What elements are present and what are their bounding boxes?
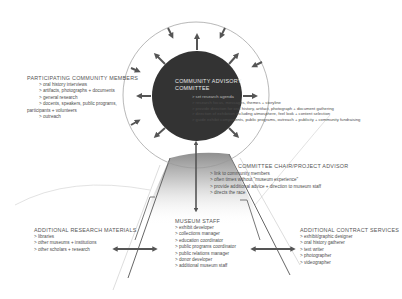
outer-arc-left: [15, 185, 150, 205]
contract-title: ADDITIONAL CONTRACT SERVICES: [300, 227, 399, 234]
list-item: public programs coordinator: [175, 244, 236, 250]
additional-contract-services: ADDITIONAL CONTRACT SERVICES exhibit/gra…: [300, 227, 399, 266]
research-title: ADDITIONAL RESEARCH MATERIALS: [34, 227, 137, 234]
museum-staff: MUSEUM STAFF exhibit developer collectio…: [175, 218, 236, 270]
cac-title-2: COMMITTEE: [175, 85, 242, 92]
list-item: additional museum staff: [175, 263, 236, 269]
community-advisory-committee: COMMUNITY ADVISORY COMMITTEE: [175, 78, 242, 92]
list-item: videographer: [300, 260, 399, 266]
additional-research: ADDITIONAL RESEARCH MATERIALS libraries …: [34, 227, 137, 253]
participating-title: PARTICIPATING COMMUNITY MEMBERS: [27, 75, 138, 82]
list-item: guide exhibit components, public program…: [192, 117, 360, 123]
chair-title: COMMITTEE CHAIR/PROJECT ADVISOR: [238, 163, 348, 170]
participating-members: PARTICIPATING COMMUNITY MEMBERS oral his…: [27, 75, 138, 120]
list-item: outreach: [39, 114, 138, 120]
chair-items: link to community members often times wi…: [210, 171, 321, 197]
cac-items: set research agenda research focus, mess…: [192, 94, 360, 123]
list-item: other scholars + research: [34, 247, 137, 253]
staff-title: MUSEUM STAFF: [175, 218, 236, 225]
committee-chair: COMMITTEE CHAIR/PROJECT ADVISOR: [238, 163, 348, 170]
list-item: directs the race: [210, 190, 321, 196]
cac-title-1: COMMUNITY ADVISORY: [175, 78, 242, 85]
